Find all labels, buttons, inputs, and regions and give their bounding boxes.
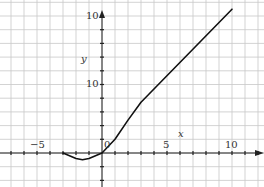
y-axis-arrow-icon	[99, 10, 105, 18]
chart: −5 0 5 10 x 10 10 y	[0, 0, 264, 187]
x-tick-label-minus5: −5	[30, 139, 45, 150]
y-tick-label-top: 10	[86, 10, 99, 21]
y-tick-label-mid: 10	[86, 78, 99, 89]
x-axis-arrow-icon	[255, 150, 264, 156]
y-axis-label: y	[80, 53, 87, 64]
x-tick-label-5: 5	[163, 139, 169, 150]
x-axis	[0, 150, 264, 156]
origin-label: 0	[104, 139, 110, 150]
grid	[0, 0, 264, 187]
x-axis-label: x	[178, 128, 184, 139]
x-tick-label-10: 10	[225, 139, 238, 150]
